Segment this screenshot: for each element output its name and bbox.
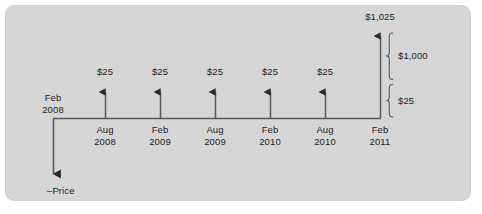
origin-date-month: Feb xyxy=(45,92,62,103)
cash-flow-amount-2: $25 xyxy=(152,66,168,78)
figure-root: $25 $25 $25 $25 $25 $1,025 Aug 2008 Feb … xyxy=(0,0,482,214)
date-label-6-month: Feb xyxy=(372,124,389,135)
cash-flow-amount-1: $25 xyxy=(97,66,113,78)
date-label-2: Feb 2009 xyxy=(149,124,171,147)
price-axis-label: –Price xyxy=(47,185,75,197)
date-label-5-year: 2010 xyxy=(314,136,336,147)
date-label-6: Feb 2011 xyxy=(370,124,391,147)
brace-coupon xyxy=(386,85,392,117)
origin-date-label: Feb 2008 xyxy=(42,92,64,115)
date-label-3-month: Aug xyxy=(206,124,223,135)
cash-flow-amount-5: $25 xyxy=(317,66,333,78)
cash-flow-amount-6: $1,025 xyxy=(365,11,395,23)
date-label-1: Aug 2008 xyxy=(94,124,116,147)
date-label-4: Feb 2010 xyxy=(259,124,281,147)
date-label-3: Aug 2009 xyxy=(204,124,226,147)
date-label-5-month: Aug xyxy=(316,124,333,135)
date-label-5: Aug 2010 xyxy=(314,124,336,147)
cash-flow-amount-3: $25 xyxy=(207,66,223,78)
date-label-1-month: Aug xyxy=(96,124,113,135)
cash-flow-amount-4: $25 xyxy=(262,66,278,78)
brace-principal-label: $1,000 xyxy=(398,50,428,62)
date-label-3-year: 2009 xyxy=(204,136,226,147)
origin-date-year: 2008 xyxy=(42,104,64,115)
date-label-4-month: Feb xyxy=(262,124,279,135)
timeline-drawing xyxy=(0,0,482,214)
date-label-6-year: 2011 xyxy=(370,136,391,147)
date-label-2-month: Feb xyxy=(152,124,169,135)
brace-coupon-label: $25 xyxy=(398,95,414,107)
cash-flow-arrows xyxy=(106,36,381,119)
date-label-4-year: 2010 xyxy=(259,136,281,147)
date-label-2-year: 2009 xyxy=(149,136,171,147)
brace-principal xyxy=(386,33,392,79)
date-label-1-year: 2008 xyxy=(94,136,116,147)
